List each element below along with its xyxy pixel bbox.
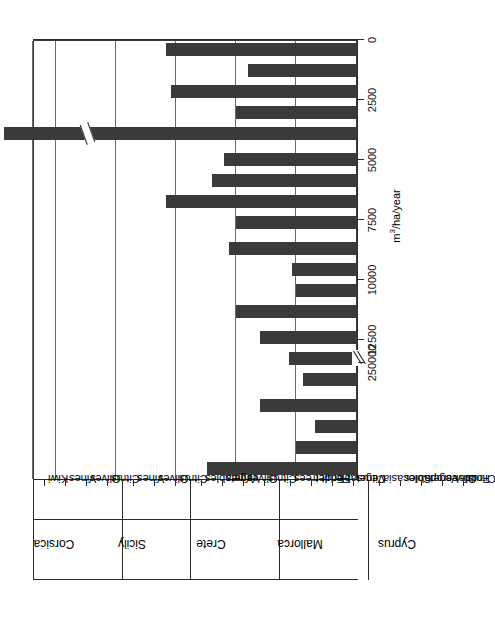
category-tick	[311, 480, 312, 486]
gridline	[115, 41, 116, 479]
value-axis-title: m3/ha/year	[388, 189, 402, 242]
bar-fodder-12	[166, 195, 356, 208]
group-label-cyprus: Cyprus	[377, 538, 415, 550]
axis-break-icon	[352, 350, 363, 366]
value-tick	[358, 339, 364, 340]
category-tick	[442, 480, 443, 486]
value-tick-label: 2500	[366, 88, 378, 112]
group-cell-sicily	[122, 480, 190, 580]
bar-olives-9	[292, 263, 356, 276]
value-axis-line-bottom	[357, 40, 358, 480]
gridline	[175, 41, 176, 479]
value-tick	[358, 99, 364, 100]
category-tick	[290, 480, 291, 486]
group-label-corsica: Corsica	[33, 538, 74, 550]
category-tick	[44, 480, 45, 486]
category-tick	[86, 480, 87, 486]
category-tick	[133, 480, 134, 486]
value-tick-label: 0	[366, 37, 378, 43]
bar-fodder-crops-17	[171, 85, 356, 98]
bar-fruit-trees-11	[236, 216, 356, 229]
bar-citrus-6	[260, 331, 356, 344]
group-cell-mallorca	[279, 480, 368, 580]
bar-vines-4	[303, 373, 356, 386]
group-cell-corsica	[33, 480, 122, 580]
category-tick	[379, 480, 380, 486]
bar-vegetables-7	[236, 305, 356, 318]
bar-vines-1	[296, 441, 356, 454]
value-tick	[358, 39, 364, 40]
bar-olives-5	[289, 352, 356, 365]
value-tick	[358, 159, 364, 160]
group-label-sicily: Sicily	[118, 538, 146, 550]
bar-olives-2	[315, 420, 356, 433]
value-tick-label: 250000	[366, 345, 378, 382]
value-tick	[358, 362, 364, 363]
category-tick	[400, 480, 401, 486]
category-tick	[243, 480, 244, 486]
plot-right-edge	[33, 39, 358, 40]
bar-citrus-14	[224, 153, 356, 166]
category-tick	[421, 480, 422, 486]
category-tick	[201, 480, 202, 486]
value-tick-label: 10000	[366, 265, 378, 296]
value-tick-label: 7500	[366, 208, 378, 232]
category-tick	[154, 480, 155, 486]
category-tick	[107, 480, 108, 486]
bar-citrus-10	[229, 242, 356, 255]
category-tick	[463, 480, 464, 486]
group-cell-crete	[190, 480, 279, 580]
category-tick	[353, 480, 354, 486]
bar-vegetables-16	[236, 106, 356, 119]
group-label-crete: Crete	[196, 538, 225, 550]
bar-vegetable-13	[212, 174, 356, 187]
bar-citrus-19	[166, 43, 356, 56]
group-cell-cyprus	[368, 480, 473, 580]
bar-colocasia-15	[4, 127, 356, 140]
bar-vines-8	[296, 284, 356, 297]
bar-olives-18	[248, 64, 356, 77]
value-tick-label: 5000	[366, 148, 378, 172]
category-tick	[65, 480, 66, 486]
gridline	[55, 41, 56, 479]
group-label-mallorca: Mallorca	[277, 538, 322, 550]
gridline	[32, 41, 33, 479]
value-tick	[358, 279, 364, 280]
category-tick	[332, 480, 333, 486]
category-tick	[264, 480, 265, 486]
bar-citrus-3	[260, 399, 356, 412]
value-tick	[358, 219, 364, 220]
category-tick	[175, 480, 176, 486]
category-tick	[222, 480, 223, 486]
plot-area	[33, 40, 357, 480]
group-band: CorsicaSicilyCreteMallorcaCyprus	[33, 480, 357, 580]
